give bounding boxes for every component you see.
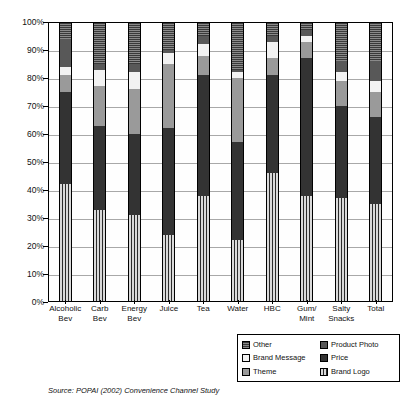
bar-segment-other[interactable] (162, 22, 175, 50)
y-axis-tick-label: 10% (4, 270, 44, 279)
bar-segment-theme[interactable] (93, 86, 106, 125)
bar-group[interactable] (335, 22, 348, 302)
bar-group[interactable] (59, 22, 72, 302)
bar-group[interactable] (128, 22, 141, 302)
bar-segment-other[interactable] (59, 22, 72, 39)
bar-segment-brand-message[interactable] (266, 42, 279, 59)
legend-item-brand-logo[interactable]: Brand Logo (320, 368, 400, 376)
bar-segment-brand-message[interactable] (59, 67, 72, 75)
bar-segment-theme[interactable] (128, 89, 141, 134)
y-axis-tick-label: 100% (4, 18, 44, 27)
y-axis-tick-label: 70% (4, 102, 44, 111)
source-note: Source: POPAI (2002) Convenience Channel… (48, 386, 219, 395)
bar-segment-brand-logo[interactable] (369, 204, 382, 302)
stacked-bar[interactable] (231, 22, 244, 302)
bar-segment-other[interactable] (128, 22, 141, 64)
bar-group[interactable] (162, 22, 175, 302)
bar-group[interactable] (300, 22, 313, 302)
bar-group[interactable] (93, 22, 106, 302)
bar-segment-product-photo[interactable] (369, 61, 382, 81)
bar-segment-brand-logo[interactable] (93, 210, 106, 302)
bar-segment-price[interactable] (162, 128, 175, 234)
stacked-bar[interactable] (59, 22, 72, 302)
bar-segment-price[interactable] (59, 92, 72, 184)
bar-segment-product-photo[interactable] (128, 64, 141, 72)
legend-item-price[interactable]: Price (320, 354, 400, 362)
bar-segment-brand-message[interactable] (335, 72, 348, 80)
y-axis-tick-mark (43, 302, 48, 303)
bar-segment-brand-message[interactable] (231, 72, 244, 78)
legend-label: Brand Logo (331, 368, 370, 376)
bar-segment-other[interactable] (335, 22, 348, 61)
legend-swatch-theme (242, 368, 250, 376)
bar-segment-brand-logo[interactable] (59, 184, 72, 302)
legend-swatch-brand-logo (320, 368, 328, 376)
stacked-bar[interactable] (162, 22, 175, 302)
bar-segment-brand-logo[interactable] (300, 196, 313, 302)
legend-swatch-product-photo (320, 341, 328, 349)
legend-item-theme[interactable]: Theme (242, 368, 320, 376)
bar-segment-theme[interactable] (162, 64, 175, 128)
legend-label: Brand Message (253, 354, 306, 362)
bar-segment-other[interactable] (231, 22, 244, 70)
bar-segment-brand-message[interactable] (93, 70, 106, 87)
stacked-bar[interactable] (369, 22, 382, 302)
bar-segment-product-photo[interactable] (231, 70, 244, 73)
legend-item-brand-message[interactable]: Brand Message (242, 354, 320, 362)
bar-segment-product-photo[interactable] (59, 39, 72, 67)
bar-segment-brand-logo[interactable] (162, 235, 175, 302)
bar-segment-price[interactable] (93, 126, 106, 210)
bar-segment-theme[interactable] (59, 75, 72, 92)
bar-segment-product-photo[interactable] (300, 30, 313, 36)
bar-segment-price[interactable] (231, 142, 244, 240)
bar-segment-brand-message[interactable] (128, 72, 141, 89)
bar-segment-product-photo[interactable] (93, 64, 106, 70)
bar-segment-brand-logo[interactable] (197, 196, 210, 302)
bar-segment-brand-logo[interactable] (128, 215, 141, 302)
bar-segment-price[interactable] (128, 134, 141, 215)
bar-segment-other[interactable] (369, 22, 382, 61)
bar-segment-other[interactable] (300, 22, 313, 30)
legend-label: Theme (253, 368, 276, 376)
x-axis-label-line: Bev (104, 314, 164, 324)
bar-group[interactable] (231, 22, 244, 302)
stacked-bar[interactable] (197, 22, 210, 302)
bar-segment-theme[interactable] (300, 42, 313, 59)
bar-segment-brand-logo[interactable] (266, 173, 279, 302)
bar-segment-price[interactable] (197, 75, 210, 195)
bar-segment-other[interactable] (197, 22, 210, 36)
bar-segment-theme[interactable] (231, 78, 244, 142)
bar-segment-product-photo[interactable] (162, 50, 175, 53)
bar-segment-price[interactable] (335, 106, 348, 198)
legend-item-product-photo[interactable]: Product Photo (320, 341, 400, 349)
stacked-bar[interactable] (93, 22, 106, 302)
bar-segment-brand-logo[interactable] (231, 240, 244, 302)
bar-segment-brand-message[interactable] (369, 81, 382, 92)
stacked-bar[interactable] (300, 22, 313, 302)
bar-group[interactable] (197, 22, 210, 302)
legend-item-other[interactable]: Other (242, 341, 320, 349)
y-axis-tick-label: 50% (4, 158, 44, 167)
bar-segment-brand-message[interactable] (162, 53, 175, 64)
bar-segment-product-photo[interactable] (335, 61, 348, 72)
bar-segment-brand-message[interactable] (300, 36, 313, 42)
bar-group[interactable] (369, 22, 382, 302)
x-axis-label-line: Snacks (311, 314, 371, 324)
bar-segment-price[interactable] (300, 58, 313, 195)
stacked-bar[interactable] (128, 22, 141, 302)
stacked-bar[interactable] (266, 22, 279, 302)
bar-segment-theme[interactable] (266, 58, 279, 75)
bar-segment-other[interactable] (266, 22, 279, 36)
bar-segment-price[interactable] (369, 117, 382, 204)
bar-segment-product-photo[interactable] (266, 36, 279, 42)
bar-segment-brand-message[interactable] (197, 44, 210, 55)
bar-segment-product-photo[interactable] (197, 36, 210, 44)
bar-segment-theme[interactable] (369, 92, 382, 117)
bar-segment-price[interactable] (266, 75, 279, 173)
bar-segment-theme[interactable] (197, 56, 210, 76)
stacked-bar[interactable] (335, 22, 348, 302)
bar-segment-brand-logo[interactable] (335, 198, 348, 302)
bar-segment-theme[interactable] (335, 81, 348, 106)
bar-segment-other[interactable] (93, 22, 106, 64)
bar-group[interactable] (266, 22, 279, 302)
